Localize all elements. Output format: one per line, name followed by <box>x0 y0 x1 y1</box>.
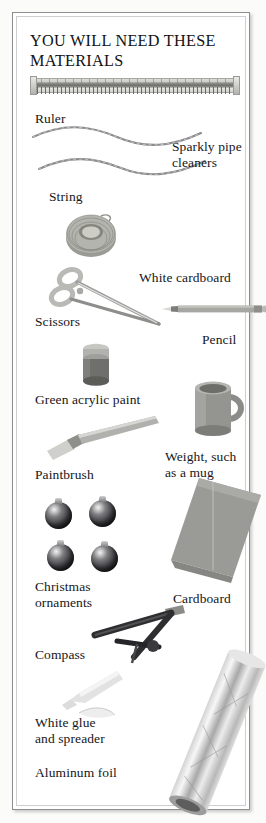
ornament-ball <box>47 544 74 571</box>
mug-photo <box>189 377 249 439</box>
label-aluminum-foil: Aluminum foil <box>35 765 117 781</box>
cardboard-sheet-photo <box>169 475 263 585</box>
label-white-cardboard: White cardboard <box>139 270 231 286</box>
ruler-lower-ticks <box>33 87 237 94</box>
ruler-left-cap <box>30 76 37 95</box>
ornament-cap <box>55 498 62 504</box>
label-paintbrush: Paintbrush <box>35 467 94 483</box>
label-pipe-cleaners: Sparkly pipe cleaners <box>172 139 242 170</box>
ornament-ball <box>91 545 118 572</box>
ornament-cap <box>99 496 106 502</box>
christmas-ornaments-photo <box>45 500 129 576</box>
ruler-photo <box>31 75 239 97</box>
page-inner-border: YOU WILL NEED THESE MATERIALS Ruler <box>16 16 246 806</box>
label-green-acrylic-paint: Green acrylic paint <box>35 392 140 408</box>
aluminum-foil-roll-photo <box>165 645 266 820</box>
label-scissors: Scissors <box>35 314 80 330</box>
page-content: YOU WILL NEED THESE MATERIALS Ruler <box>17 17 255 815</box>
page-title: YOU WILL NEED THESE MATERIALS <box>30 31 240 71</box>
pencil-photo <box>162 302 266 316</box>
paint-jar-photo <box>79 340 113 388</box>
label-white-glue: White glue and spreader <box>35 715 105 746</box>
ruler-upper-ticks <box>33 79 237 83</box>
ornament-cap <box>101 541 108 547</box>
ruler-right-cap <box>233 76 240 95</box>
paintbrush-photo <box>43 415 165 463</box>
page-frame: YOU WILL NEED THESE MATERIALS Ruler <box>12 12 250 810</box>
label-string: String <box>49 189 83 205</box>
label-compass: Compass <box>35 647 85 663</box>
ornament-cap <box>57 540 64 546</box>
ornament-ball <box>45 502 72 529</box>
glue-and-spreader-photo <box>57 665 153 721</box>
label-pencil: Pencil <box>202 332 236 348</box>
label-christmas-ornaments: Christmas ornaments <box>35 579 92 610</box>
string-coil-photo <box>63 208 119 260</box>
ornament-ball <box>89 500 116 527</box>
materials-page: YOU WILL NEED THESE MATERIALS Ruler <box>0 0 266 823</box>
